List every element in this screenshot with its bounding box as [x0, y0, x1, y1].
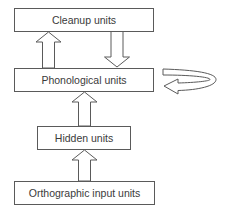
orthographic-input-units-label: Orthographic input units — [29, 187, 140, 199]
arrow-down-cleanup-to-phonological — [105, 31, 130, 67]
phonological-units-box: Phonological units — [14, 68, 154, 92]
cleanup-units-box: Cleanup units — [14, 8, 154, 32]
arrow-up-orthographic-to-hidden — [72, 150, 97, 181]
phonological-units-label: Phonological units — [41, 74, 126, 86]
cleanup-units-label: Cleanup units — [52, 14, 116, 26]
hidden-units-box: Hidden units — [37, 126, 131, 150]
arrow-up-phonological-to-cleanup — [36, 32, 61, 68]
orthographic-input-units-box: Orthographic input units — [14, 181, 155, 205]
hidden-units-label: Hidden units — [55, 132, 113, 144]
recurrent-loop-arrow — [163, 69, 216, 94]
arrow-up-hidden-to-phonological — [72, 92, 97, 126]
